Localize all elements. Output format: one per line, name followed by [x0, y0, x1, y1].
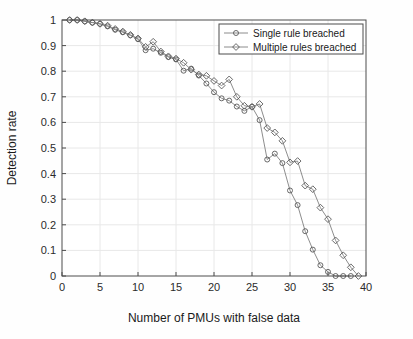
- y-tick-label: 1: [50, 14, 56, 26]
- y-tick-label: 0.5: [41, 142, 56, 154]
- y-tick-label: 0.4: [41, 168, 56, 180]
- x-tick-label: 0: [59, 281, 65, 293]
- y-tick-label: 0.2: [41, 219, 56, 231]
- x-tick-label: 30: [284, 281, 296, 293]
- x-tick-label: 20: [208, 281, 220, 293]
- y-tick-label: 0.6: [41, 116, 56, 128]
- detection-rate-line-chart: 0510152025303540 00.10.20.30.40.50.60.70…: [0, 0, 413, 339]
- x-tick-label: 40: [360, 281, 372, 293]
- legend-label: Single rule breached: [253, 28, 345, 39]
- y-axis-title: Detection rate: [5, 110, 19, 185]
- x-tick-label: 5: [97, 281, 103, 293]
- y-tick-label: 0.7: [41, 91, 56, 103]
- x-tick-label: 10: [132, 281, 144, 293]
- y-tick-label: 0.8: [41, 65, 56, 77]
- x-axis-title: Number of PMUs with false data: [128, 311, 300, 325]
- legend-label: Multiple rules breached: [253, 42, 356, 53]
- chart-legend[interactable]: Single rule breachedMultiple rules breac…: [219, 24, 363, 54]
- x-tick-label: 15: [170, 281, 182, 293]
- chart-figure: 0510152025303540 00.10.20.30.40.50.60.70…: [0, 0, 413, 339]
- x-tick-label: 35: [322, 281, 334, 293]
- y-tick-label: 0.1: [41, 244, 56, 256]
- y-tick-label: 0.3: [41, 193, 56, 205]
- y-tick-label: 0: [50, 270, 56, 282]
- y-tick-label: 0.9: [41, 40, 56, 52]
- x-tick-label: 25: [246, 281, 258, 293]
